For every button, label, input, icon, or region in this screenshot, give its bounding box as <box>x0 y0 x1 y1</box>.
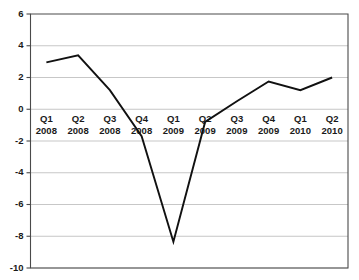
y-axis-tick-label: 2 <box>18 71 23 82</box>
x-axis-tick-label-year: 2009 <box>163 125 184 136</box>
chart-container: 6420-2-4-6-8-10 Q12008Q22008Q32008Q42008… <box>0 0 359 280</box>
y-axis-tick-labels: 6420-2-4-6-8-10 <box>10 8 24 273</box>
line-chart: 6420-2-4-6-8-10 Q12008Q22008Q32008Q42008… <box>0 0 359 280</box>
y-axis-tick-label: 0 <box>18 103 23 114</box>
x-axis-tick-label-year: 2009 <box>226 125 247 136</box>
y-axis-tick-label: -2 <box>15 135 23 146</box>
gridlines-group <box>31 46 349 268</box>
x-axis-tick-label-quarter: Q1 <box>40 113 53 124</box>
x-axis-tick-label-year: 2009 <box>195 125 216 136</box>
x-axis-tick-label-quarter: Q3 <box>231 113 244 124</box>
x-axis-tick-label-year: 2008 <box>68 125 89 136</box>
data-series-group <box>46 55 332 242</box>
y-axis-tick-label: -6 <box>15 198 23 209</box>
series-line-path <box>46 55 332 242</box>
y-axis-tick-label: -10 <box>10 262 24 273</box>
x-axis-tick-label-quarter: Q4 <box>135 113 148 124</box>
x-axis-tick-label-quarter: Q4 <box>262 113 275 124</box>
x-axis-tick-label-quarter: Q3 <box>104 113 117 124</box>
x-axis-tick-label-quarter: Q1 <box>294 113 307 124</box>
x-axis-tick-label-year: 2010 <box>290 125 311 136</box>
y-axis-tick-label: 6 <box>18 8 23 19</box>
x-axis-tick-label-year: 2009 <box>258 125 279 136</box>
x-axis-tick-label-year: 2008 <box>99 125 120 136</box>
x-axis-tick-label-year: 2008 <box>36 125 57 136</box>
x-axis-tick-label-quarter: Q2 <box>72 113 85 124</box>
y-axis-tick-label: 4 <box>18 39 24 50</box>
y-axis-tick-label: -4 <box>15 166 24 177</box>
x-axis-tick-labels: Q12008Q22008Q32008Q42008Q12009Q22009Q320… <box>36 113 343 136</box>
x-axis-tick-label-year: 2010 <box>322 125 343 136</box>
y-axis-tick-label: -8 <box>15 230 23 241</box>
x-axis-tick-label-quarter: Q2 <box>326 113 339 124</box>
y-axis-tick-marks <box>27 14 31 268</box>
x-axis-tick-label-quarter: Q1 <box>167 113 180 124</box>
